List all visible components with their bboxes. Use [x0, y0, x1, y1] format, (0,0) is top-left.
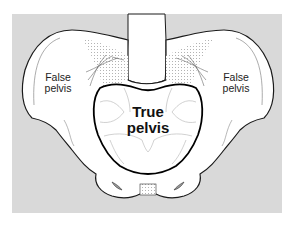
label-false-pelvis-left-line2: pelvis — [38, 83, 78, 94]
label-false-pelvis-left: False pelvis — [38, 72, 78, 94]
label-true-pelvis-line2: pelvis — [118, 120, 178, 136]
label-true-pelvis: True pelvis — [118, 104, 178, 136]
sacrum-column — [127, 14, 166, 84]
label-false-pelvis-right: False pelvis — [216, 72, 256, 94]
label-false-pelvis-right-line2: pelvis — [216, 83, 256, 94]
pubic-symphysis — [140, 184, 156, 195]
pelvis-diagram: False pelvis False pelvis True pelvis — [0, 0, 296, 227]
label-true-pelvis-line1: True — [118, 104, 178, 120]
